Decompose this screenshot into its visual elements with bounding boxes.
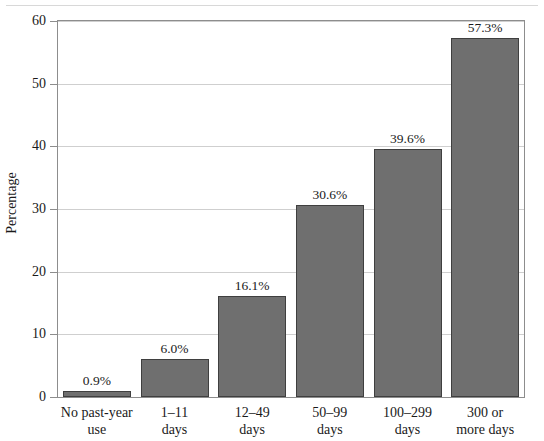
plot-area: 0.9%6.0%16.1%30.6%39.6%57.3% <box>57 20 525 398</box>
bar-value-label: 0.9% <box>57 374 137 388</box>
bar-value-label: 39.6% <box>368 132 448 146</box>
x-axis-category-label: 300 ormore days <box>446 404 524 438</box>
y-tick-mark <box>50 21 57 22</box>
x-axis-category-line: days <box>136 421 214 438</box>
x-axis-category-line: 300 or <box>446 404 524 421</box>
bar <box>451 38 519 397</box>
y-axis-tick-label: 40 <box>6 139 46 153</box>
x-axis-category-label: 50–99days <box>291 404 369 438</box>
y-tick-mark <box>50 84 57 85</box>
x-axis-category-line: use <box>58 421 136 438</box>
x-axis-category-line: No past-year <box>58 404 136 421</box>
y-axis-tick-label: 20 <box>6 265 46 279</box>
bar-value-label: 30.6% <box>290 188 370 202</box>
x-axis-category-label: 12–49days <box>213 404 291 438</box>
y-tick-mark <box>50 397 57 398</box>
x-axis-category-line: days <box>291 421 369 438</box>
x-axis-category-line: 50–99 <box>291 404 369 421</box>
bar <box>296 205 364 397</box>
bar <box>374 149 442 397</box>
x-axis-category-label: 100–299days <box>369 404 447 438</box>
y-tick-mark <box>50 209 57 210</box>
y-axis-tick-label: 0 <box>6 390 46 404</box>
x-axis-category-line: 100–299 <box>369 404 447 421</box>
bar-value-label: 57.3% <box>445 21 525 35</box>
bar <box>218 296 286 397</box>
y-tick-mark <box>50 334 57 335</box>
top-rule-divider <box>6 5 538 6</box>
y-axis-tick-label: 30 <box>6 202 46 216</box>
x-axis-category-line: 1–11 <box>136 404 214 421</box>
bar <box>63 391 131 397</box>
bar <box>141 359 209 397</box>
bar-value-label: 6.0% <box>135 342 215 356</box>
y-axis-tick-label: 10 <box>6 327 46 341</box>
y-tick-mark <box>50 146 57 147</box>
bar-value-label: 16.1% <box>212 279 292 293</box>
y-axis-tick-label: 50 <box>6 77 46 91</box>
x-axis-category-line: 12–49 <box>213 404 291 421</box>
x-axis-category-line: days <box>369 421 447 438</box>
x-axis-category-line: more days <box>446 421 524 438</box>
bar-chart-figure: Percentage 0102030405060 0.9%6.0%16.1%30… <box>0 0 544 441</box>
y-tick-mark <box>50 272 57 273</box>
y-axis-tick-label: 60 <box>6 14 46 28</box>
x-axis-category-label: 1–11days <box>136 404 214 438</box>
x-axis-category-label: No past-yearuse <box>58 404 136 438</box>
x-axis-category-line: days <box>213 421 291 438</box>
